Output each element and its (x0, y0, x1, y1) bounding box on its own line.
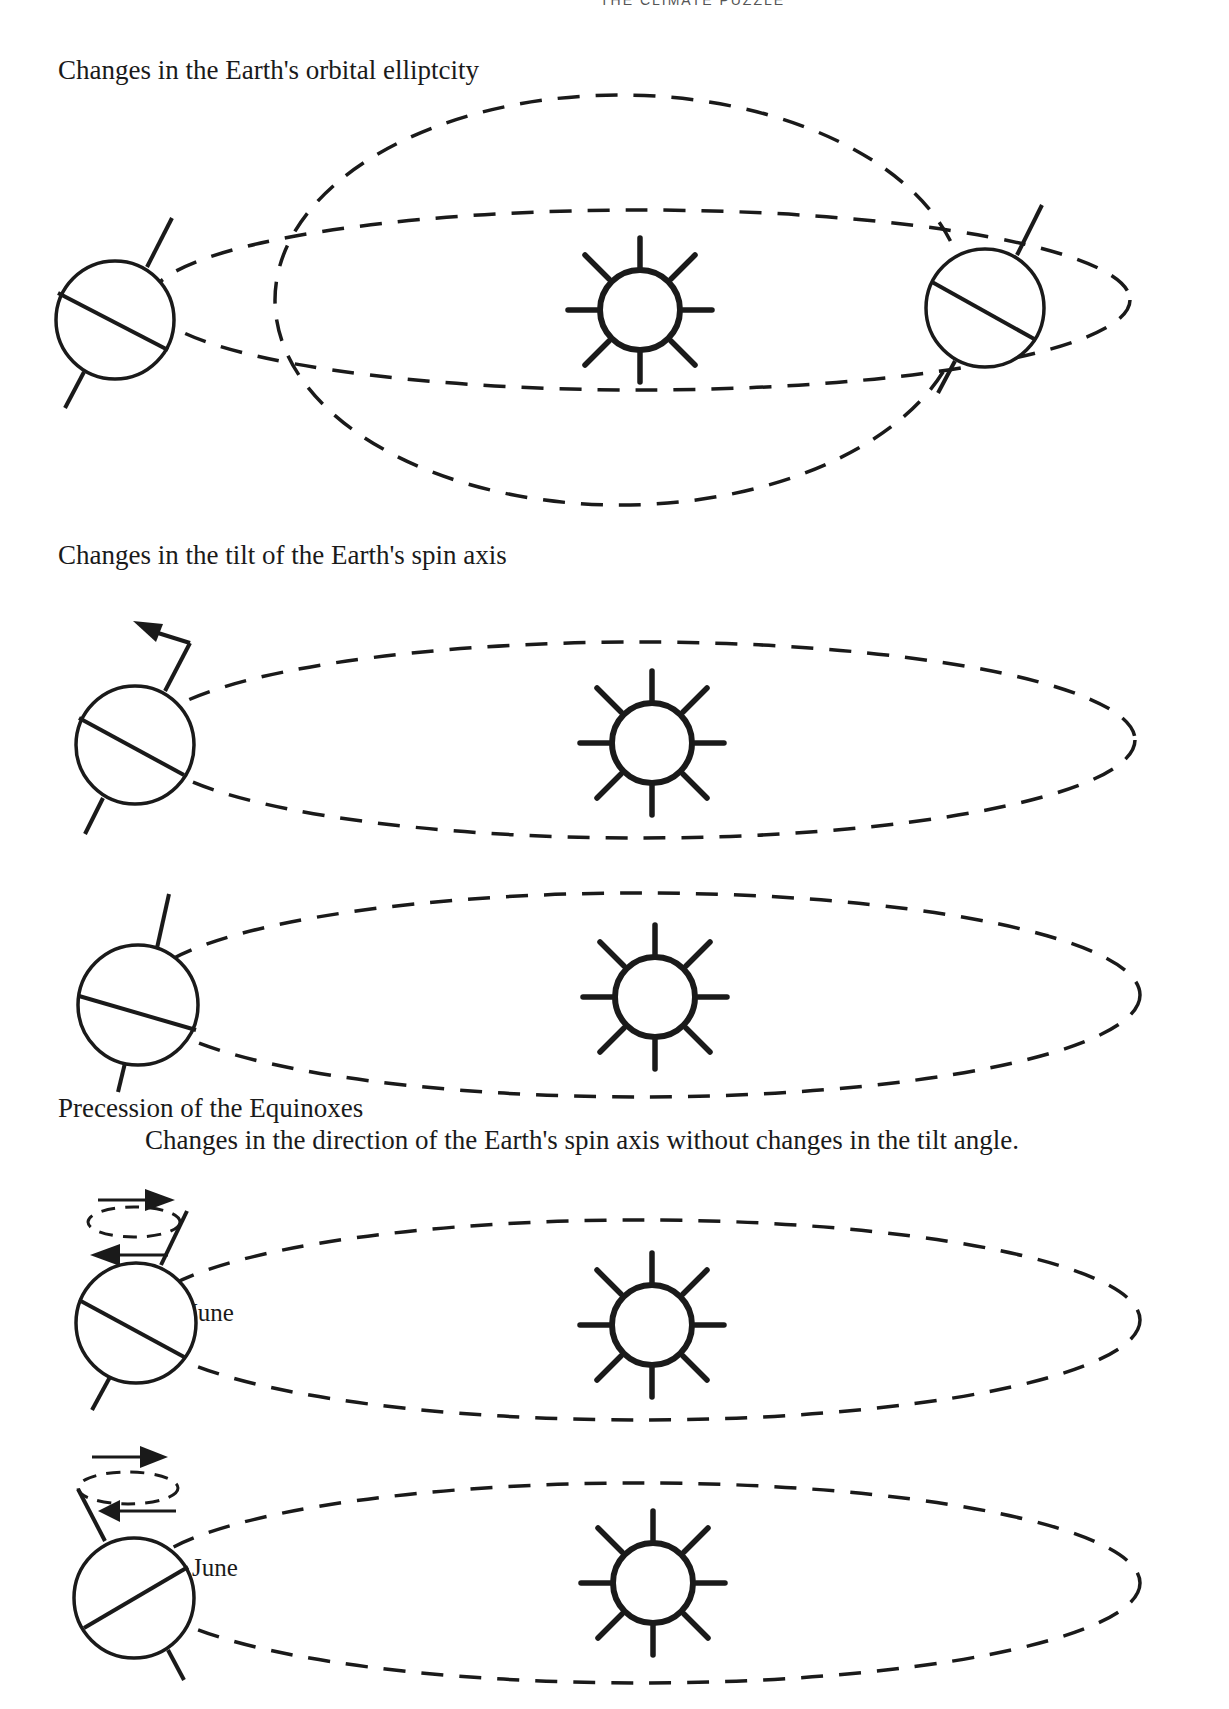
section-precession-b (74, 1446, 1140, 1683)
precession-circle (88, 1207, 180, 1237)
tilt-arrow-shaft (158, 633, 190, 643)
earth-icon (78, 894, 198, 1092)
precession-circle (78, 1472, 178, 1504)
sun-icon (583, 925, 727, 1069)
section-tilt-a (76, 621, 1135, 838)
sun-icon (581, 1511, 725, 1655)
orbital-diagram (0, 0, 1229, 1709)
sun-icon (580, 1253, 724, 1397)
earth-icon (74, 1489, 194, 1680)
arrow-right-icon (145, 1189, 175, 1211)
arrow-left-icon (90, 1244, 120, 1266)
section-precession-a (76, 1189, 1140, 1420)
earth-icon (76, 1211, 196, 1410)
earth-icon (926, 205, 1044, 393)
sun-icon (568, 238, 712, 382)
earth-icon (76, 621, 194, 834)
section-tilt-b (78, 893, 1140, 1097)
sun-icon (580, 671, 724, 815)
arrow-icon (133, 621, 163, 642)
earth-icon (56, 218, 174, 408)
arrow-right-icon (140, 1446, 168, 1468)
section-ellipticity (56, 95, 1130, 505)
